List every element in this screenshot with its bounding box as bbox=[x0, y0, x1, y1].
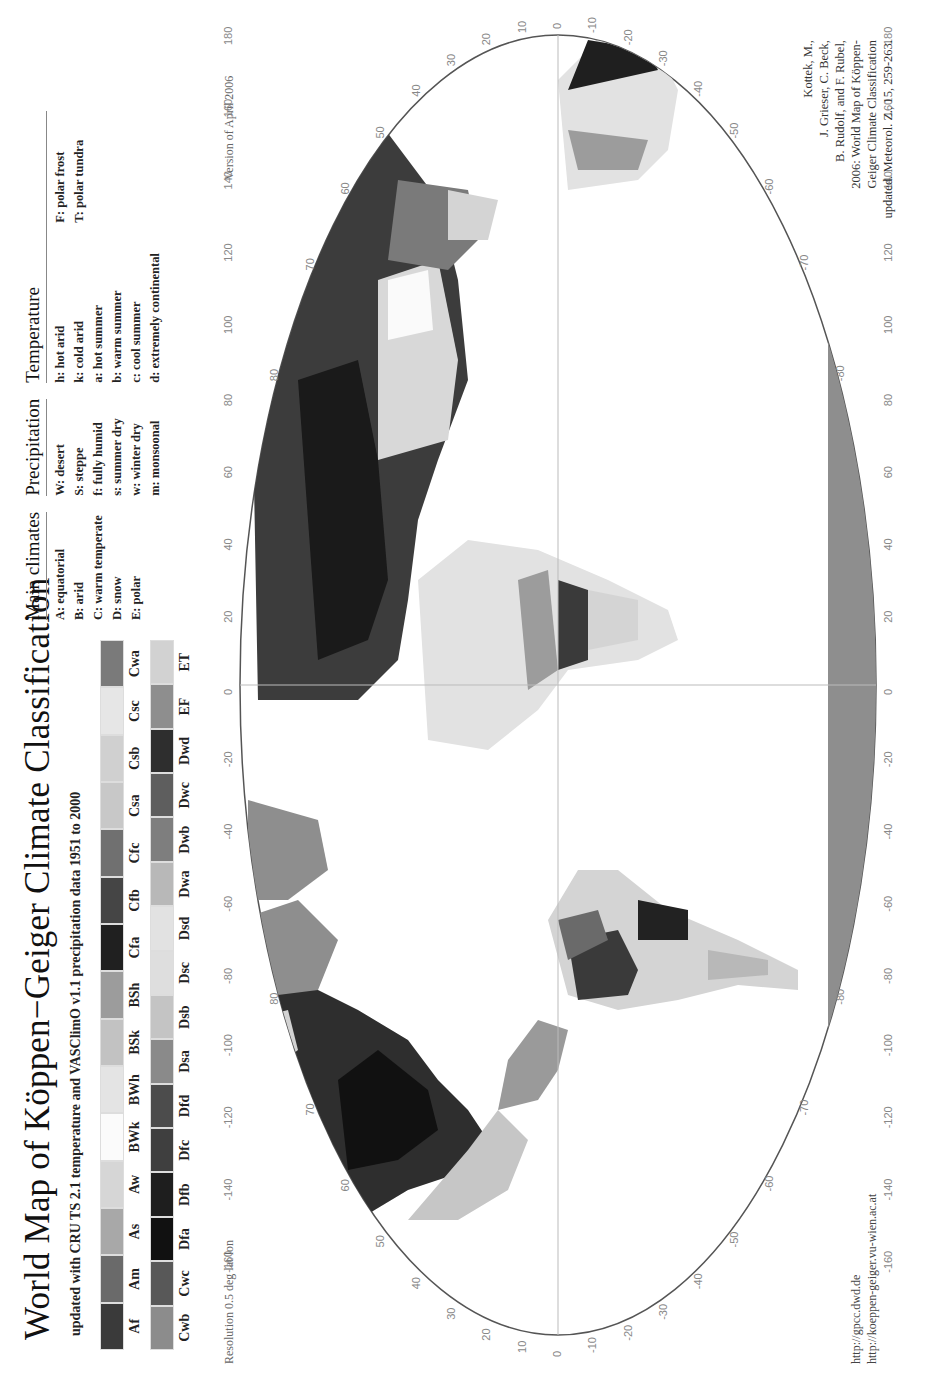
legend-code: Aw bbox=[127, 1161, 143, 1208]
legend-swatch bbox=[150, 862, 174, 906]
citation: Kottek, M., J. Grieser, C. Beck, B. Rudo… bbox=[800, 40, 896, 218]
latitude-tick-label: -70 bbox=[798, 255, 810, 271]
legend-swatch bbox=[100, 1208, 124, 1255]
latitude-tick-label: 30 bbox=[445, 1308, 457, 1320]
legend-swatch bbox=[150, 1039, 174, 1083]
legend-swatch bbox=[150, 1128, 174, 1172]
legend-swatch bbox=[100, 735, 124, 782]
url-link[interactable]: http://koeppen-geiger.vu-wien.ac.at bbox=[864, 1194, 880, 1364]
world-map-graphic bbox=[238, 30, 878, 1340]
legend-item-aw: Aw bbox=[100, 1161, 146, 1208]
longitude-tick-label: -100 bbox=[882, 1034, 894, 1056]
longitude-tick-label: 160 bbox=[222, 99, 234, 117]
longitude-tick-label: -20 bbox=[882, 751, 894, 767]
longitude-tick-label: -60 bbox=[882, 896, 894, 912]
longitude-tick-label: -60 bbox=[222, 896, 234, 912]
legend-item-dsc: Dsc bbox=[150, 951, 196, 995]
legend-code: ET bbox=[177, 640, 193, 684]
latitude-tick-label: 40 bbox=[410, 1277, 422, 1289]
latitude-tick-label: 0 bbox=[551, 1351, 563, 1357]
legend-swatch bbox=[150, 1084, 174, 1128]
legend-code: Dsa bbox=[177, 1039, 193, 1083]
longitude-tick-label: 100 bbox=[222, 316, 234, 334]
latitude-tick-label: 10 bbox=[516, 1341, 528, 1353]
longitude-tick-label: 60 bbox=[882, 466, 894, 478]
longitude-tick-label: 40 bbox=[222, 538, 234, 550]
citation-line: 2006: World Map of Köppen- bbox=[848, 40, 864, 218]
legend-item-et: ET bbox=[150, 640, 196, 684]
longitude-tick-label: -40 bbox=[882, 824, 894, 840]
legend-swatch bbox=[100, 877, 124, 924]
legend-swatch bbox=[100, 971, 124, 1018]
legend-code: Csa bbox=[127, 782, 143, 829]
latitude-tick-label: 10 bbox=[516, 21, 528, 33]
legend-swatch bbox=[100, 1303, 124, 1350]
legend-item-cfc: Cfc bbox=[100, 829, 146, 876]
latitude-tick-label: -40 bbox=[692, 81, 704, 97]
temperature-heading: Temperature bbox=[22, 111, 47, 383]
latitude-tick-label: 50 bbox=[374, 126, 386, 138]
longitude-tick-label: 140 bbox=[222, 171, 234, 189]
url-link[interactable]: http://gpcc.dwd.de bbox=[848, 1194, 864, 1364]
legend-item-cwb: Cwb bbox=[150, 1306, 196, 1350]
legend-swatch bbox=[150, 995, 174, 1039]
legend-swatch bbox=[100, 1066, 124, 1113]
legend-swatch bbox=[150, 684, 174, 728]
legend-code: Dwa bbox=[177, 862, 193, 906]
longitude-tick-label: -120 bbox=[882, 1106, 894, 1128]
latitude-tick-label: -40 bbox=[692, 1273, 704, 1289]
legend-code: Dsc bbox=[177, 951, 193, 995]
longitude-tick-label: -160 bbox=[222, 1251, 234, 1273]
legend-code: Am bbox=[127, 1255, 143, 1302]
latitude-tick-label: 20 bbox=[480, 33, 492, 45]
main-climates-item: D: snow bbox=[108, 512, 127, 620]
longitude-tick-label: -140 bbox=[222, 1179, 234, 1201]
longitude-tick-label: 20 bbox=[882, 611, 894, 623]
latitude-tick-label: -30 bbox=[657, 1304, 669, 1320]
legend-item-dsb: Dsb bbox=[150, 995, 196, 1039]
longitude-tick-label: 80 bbox=[882, 394, 894, 406]
legend-item-csc: Csc bbox=[100, 687, 146, 734]
legend-item-cfa: Cfa bbox=[100, 924, 146, 971]
latitude-tick-label: 60 bbox=[339, 182, 351, 194]
legend-item-dwb: Dwb bbox=[150, 818, 196, 862]
latitude-tick-label: -20 bbox=[622, 1325, 634, 1341]
precipitation-heading: Precipitation bbox=[22, 399, 47, 496]
version-note: Version of April 2006 bbox=[222, 76, 237, 180]
page-subtitle: updated with CRU TS 2.1 temperature and … bbox=[68, 792, 84, 1336]
legend-item-am: Am bbox=[100, 1255, 146, 1302]
citation-line: B. Rudolf, and F. Rubel, bbox=[832, 40, 848, 218]
longitude-tick-label: 20 bbox=[222, 611, 234, 623]
legend-code: Cwb bbox=[177, 1306, 193, 1350]
latitude-tick-label: 0 bbox=[551, 23, 563, 29]
legend-item-dwd: Dwd bbox=[150, 729, 196, 773]
legend-swatch bbox=[150, 906, 174, 950]
legend-swatch bbox=[100, 687, 124, 734]
legend-code: Csb bbox=[127, 735, 143, 782]
latitude-tick-label: 70 bbox=[304, 258, 316, 270]
legend-item-dsa: Dsa bbox=[150, 1039, 196, 1083]
legend-item-bwh: BWh bbox=[100, 1066, 146, 1113]
temperature-item: h: hot arid bbox=[51, 223, 70, 383]
latitude-tick-label: -60 bbox=[763, 1176, 775, 1192]
legend-code: As bbox=[127, 1208, 143, 1255]
legend-swatch bbox=[100, 1255, 124, 1302]
main-climates-column: Main climates A: equatorial B: arid C: w… bbox=[22, 512, 165, 620]
longitude-tick-label: 100 bbox=[882, 316, 894, 334]
legend-item-bsk: BSk bbox=[100, 1019, 146, 1066]
legend-code: Cfc bbox=[127, 829, 143, 876]
legend-swatch bbox=[100, 1161, 124, 1208]
legend-swatch bbox=[150, 951, 174, 995]
legend-swatch bbox=[150, 1173, 174, 1217]
legend-swatch bbox=[100, 1019, 124, 1066]
latitude-tick-label: -10 bbox=[586, 1337, 598, 1353]
longitude-tick-label: -140 bbox=[882, 1179, 894, 1201]
legend-code: BWh bbox=[127, 1066, 143, 1113]
legend-item-dfc: Dfc bbox=[150, 1128, 196, 1172]
temperature-item: b: warm summer bbox=[108, 223, 127, 383]
longitude-tick-label: -20 bbox=[222, 751, 234, 767]
main-climates-item: B: arid bbox=[70, 512, 89, 620]
legend-swatch bbox=[150, 1261, 174, 1305]
temperature-item: a: hot summer bbox=[89, 223, 108, 383]
longitude-tick-label: -80 bbox=[882, 968, 894, 984]
